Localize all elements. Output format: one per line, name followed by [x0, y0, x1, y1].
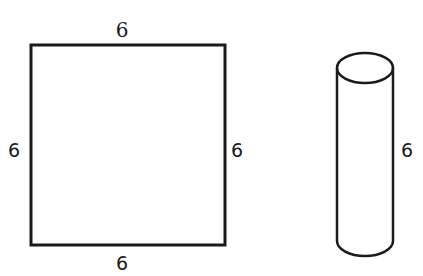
square-right-label: 6: [231, 139, 243, 161]
square-outline: [31, 45, 225, 245]
geometry-diagram: 6 6 6 6 6: [0, 0, 423, 276]
cylinder-top-ellipse: [337, 53, 393, 83]
square-figure: 6 6 6 6: [8, 18, 243, 274]
square-top-label: 6: [116, 18, 129, 42]
cylinder-height-label: 6: [401, 139, 413, 161]
square-bottom-label: 6: [116, 252, 128, 274]
square-left-label: 6: [8, 139, 20, 161]
cylinder-figure: 6: [337, 53, 413, 256]
cylinder-bottom-arc: [337, 241, 393, 256]
